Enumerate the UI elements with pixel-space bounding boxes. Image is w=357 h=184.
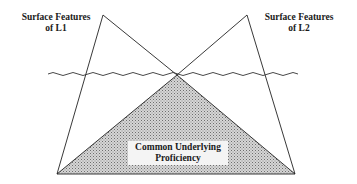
l1-right-edge	[103, 15, 177, 75]
cup-label-line2: Proficiency	[128, 153, 228, 164]
l1-surface-features-label: Surface Features of L1	[14, 12, 98, 34]
l2-label-line2: of L2	[257, 23, 341, 34]
common-underlying-proficiency-label: Common Underlying Proficiency	[128, 141, 228, 165]
l2-left-edge	[177, 15, 247, 75]
l1-label-line2: of L1	[14, 23, 98, 34]
l2-surface-features-label: Surface Features of L2	[257, 12, 341, 34]
l2-label-line1: Surface Features	[257, 12, 341, 23]
l1-label-line1: Surface Features	[14, 12, 98, 23]
cup-label-line1: Common Underlying	[128, 142, 228, 153]
